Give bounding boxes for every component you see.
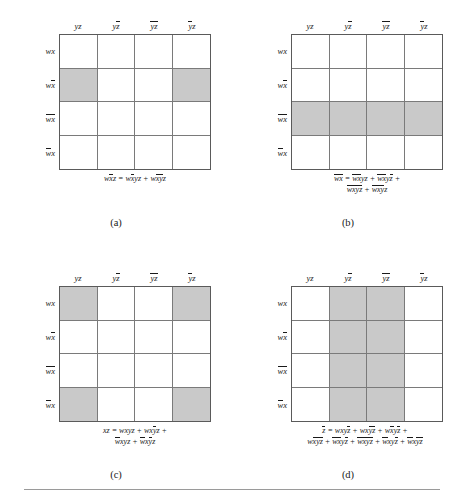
kmap-cell <box>135 102 173 136</box>
kmap-cell <box>330 136 368 170</box>
kmap-cell <box>173 35 211 69</box>
kmap-cell <box>367 287 405 321</box>
column-header: yz <box>329 270 367 286</box>
row-label: wx <box>253 102 291 136</box>
row-label: wx <box>253 286 291 320</box>
kmap-cell <box>405 35 443 69</box>
kmap-equation-c: xz = wxyz + wxyz +wxyz + wxyz <box>59 425 211 447</box>
kmap-cell <box>292 35 330 69</box>
kmap-cell <box>135 388 173 422</box>
panel-caption-a: (a) <box>0 217 232 228</box>
kmap-cell <box>60 354 98 388</box>
kmap-cell <box>173 287 211 321</box>
equation-line: wx = wxyz + wxyz + <box>291 173 443 184</box>
row-label: wx <box>21 68 59 102</box>
kmap-cell <box>405 136 443 170</box>
kmap-cell <box>405 321 443 355</box>
kmap-panel-d: yz yz yz yz wx wx wx wx z = wxyz + wxyz … <box>232 252 464 504</box>
column-header: yz <box>173 18 211 34</box>
row-label: wx <box>21 320 59 354</box>
kmap-cell <box>173 321 211 355</box>
kmap-cell <box>98 354 136 388</box>
kmap-cell <box>330 35 368 69</box>
column-header: yz <box>367 270 405 286</box>
kmap-panel-b: yz yz yz yz wx wx wx wx wx = wxyz + wxyz… <box>232 0 464 252</box>
kmap-cell <box>367 102 405 136</box>
kmap-cell <box>405 102 443 136</box>
panel-caption-b: (b) <box>232 217 464 228</box>
kmap-cell <box>292 354 330 388</box>
kmap-cell <box>330 321 368 355</box>
kmap-block-a: yz yz yz yz wx wx wx wx wxz = wxyz + wxy… <box>21 18 211 184</box>
equation-line: z = wxyz + wxyz + wxyz + <box>261 425 464 436</box>
kmap-cell <box>367 69 405 103</box>
column-headers-d: yz yz yz yz <box>291 270 443 286</box>
kmap-cell <box>367 35 405 69</box>
kmap-cell <box>135 35 173 69</box>
row-labels-c: wx wx wx wx <box>21 286 59 422</box>
kmap-cell <box>405 287 443 321</box>
kmap-cell <box>135 136 173 170</box>
kmap-cell <box>292 287 330 321</box>
row-label: wx <box>21 34 59 68</box>
row-label: wx <box>21 354 59 388</box>
kmap-grid-c <box>59 286 211 422</box>
row-label: wx <box>21 102 59 136</box>
column-header: yz <box>405 270 443 286</box>
kmap-equation-b: wx = wxyz + wxyz +wxyz + wxyz <box>291 173 443 195</box>
kmap-equation-a: wxz = wxyz + wxyz <box>59 173 211 184</box>
kmap-body-a: wx wx wx wx <box>21 34 211 170</box>
kmap-cell <box>60 69 98 103</box>
row-label: wx <box>21 136 59 170</box>
kmap-cell <box>405 388 443 422</box>
kmap-cell <box>98 69 136 103</box>
kmap-block-c: yz yz yz yz wx wx wx wx xz = wxyz + wxyz… <box>21 270 211 447</box>
kmap-cell <box>367 321 405 355</box>
kmap-cell <box>98 287 136 321</box>
kmap-cell <box>135 354 173 388</box>
kmap-cell <box>98 102 136 136</box>
column-header: yz <box>59 270 97 286</box>
kmap-cell <box>173 102 211 136</box>
kmap-cell <box>60 136 98 170</box>
kmap-cell <box>135 69 173 103</box>
column-header: yz <box>329 18 367 34</box>
kmap-cell <box>60 287 98 321</box>
row-label: wx <box>253 388 291 422</box>
kmap-block-b: yz yz yz yz wx wx wx wx wx = wxyz + wxyz… <box>253 18 443 195</box>
kmap-cell <box>60 321 98 355</box>
kmap-cell <box>173 388 211 422</box>
kmap-cell <box>173 69 211 103</box>
row-labels-b: wx wx wx wx <box>253 34 291 170</box>
kmap-grid-d <box>291 286 443 422</box>
column-headers-b: yz yz yz yz <box>291 18 443 34</box>
kmap-cell <box>292 321 330 355</box>
column-header: yz <box>135 18 173 34</box>
column-headers-c: yz yz yz yz <box>59 270 211 286</box>
kmap-cell <box>173 136 211 170</box>
equation-line: wxyz + wxyz + wxyz + wxyz + wxyz <box>261 436 464 447</box>
row-labels-a: wx wx wx wx <box>21 34 59 170</box>
kmap-cell <box>330 69 368 103</box>
kmap-cell <box>292 136 330 170</box>
row-label: wx <box>253 68 291 102</box>
kmap-panel-a: yz yz yz yz wx wx wx wx wxz = wxyz + wxy… <box>0 0 232 252</box>
panel-caption-c: (c) <box>0 469 232 480</box>
kmap-panel-c: yz yz yz yz wx wx wx wx xz = wxyz + wxyz… <box>0 252 232 504</box>
kmap-cell <box>292 102 330 136</box>
kmap-cell <box>405 354 443 388</box>
column-header: yz <box>367 18 405 34</box>
kmap-body-c: wx wx wx wx <box>21 286 211 422</box>
kmap-cell <box>405 69 443 103</box>
kmap-cell <box>98 321 136 355</box>
row-label: wx <box>253 320 291 354</box>
kmap-cell <box>60 388 98 422</box>
column-header: yz <box>405 18 443 34</box>
kmap-cell <box>98 35 136 69</box>
row-label: wx <box>21 286 59 320</box>
column-header: yz <box>135 270 173 286</box>
kmap-body-b: wx wx wx wx <box>253 34 443 170</box>
kmap-cell <box>60 35 98 69</box>
kmap-cell <box>330 388 368 422</box>
kmap-body-d: wx wx wx wx <box>253 286 443 422</box>
